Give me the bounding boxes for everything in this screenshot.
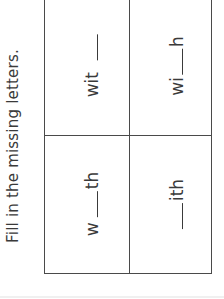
grid-horizontal-divider: [45, 135, 211, 136]
blank-line[interactable]: [93, 35, 98, 61]
blank-line[interactable]: [93, 191, 98, 217]
word-suffix: ith: [167, 179, 187, 201]
word-cell-top-right: wih: [167, 36, 187, 95]
word-cell-bottom-left: wth: [82, 172, 102, 236]
word-prefix: wi: [167, 77, 187, 96]
word-cell-top-left: wit: [82, 33, 102, 98]
blank-line[interactable]: [178, 49, 183, 75]
word-prefix: wit: [82, 72, 102, 97]
page-edge: [0, 296, 224, 298]
grid-vertical-divider: [129, 0, 130, 273]
instruction-text: Fill in the missing letters.: [4, 49, 22, 243]
word-prefix: w: [82, 222, 102, 236]
word-cell-bottom-right: ith: [167, 179, 187, 231]
blank-line[interactable]: [178, 203, 183, 229]
word-suffix: th: [82, 172, 102, 189]
word-suffix: h: [167, 36, 187, 47]
